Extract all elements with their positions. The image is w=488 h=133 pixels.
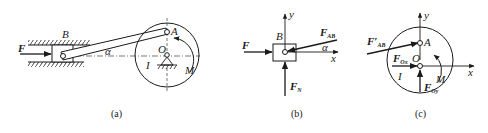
mechanics-diagram: F B α A O I M (a) y x F FAB α B xyxy=(0,0,488,133)
figure-a: F B α A O I M (a) xyxy=(17,18,200,120)
body-label: I xyxy=(397,70,403,82)
fox-label: FOx xyxy=(392,52,408,65)
moment-label: M xyxy=(435,73,446,85)
y-axis-label: y xyxy=(288,8,294,20)
x-axis-label: x xyxy=(330,52,336,64)
caption-b: (b) xyxy=(291,108,303,120)
pivot-label: O xyxy=(158,43,166,55)
caption-c: (c) xyxy=(415,108,426,120)
moment-label: M xyxy=(184,64,195,76)
y-axis-label: y xyxy=(423,9,429,21)
pivot-label: O xyxy=(412,52,420,64)
force-label: F xyxy=(241,39,250,51)
slider-label: B xyxy=(62,28,69,40)
slider-label: B xyxy=(276,30,283,42)
body-label: I xyxy=(145,59,151,71)
pin-b xyxy=(283,50,288,55)
upper-guide-hatch xyxy=(28,40,90,45)
pin-b xyxy=(61,54,66,59)
pivot-o xyxy=(418,64,423,69)
angle-label: α xyxy=(105,45,111,57)
figure-b: y x F FAB α B FN (b) xyxy=(241,8,338,120)
normal-force-label: FN xyxy=(289,80,302,93)
pivot-support xyxy=(161,57,173,65)
ground-hatch xyxy=(157,65,177,69)
lower-guide-hatch xyxy=(28,62,84,67)
figure-c: y x F′AB A FOx O FOy I M (c) xyxy=(366,9,474,120)
caption-a: (a) xyxy=(111,108,122,120)
pin-a xyxy=(418,41,423,46)
force-ab-label: FAB xyxy=(319,26,335,39)
force-label: F xyxy=(17,42,26,54)
force-ab-label: F′AB xyxy=(366,35,385,48)
pin-a xyxy=(165,30,170,35)
point-a-label: A xyxy=(423,36,431,48)
angle-label: α xyxy=(322,41,328,53)
point-a-label: A xyxy=(170,25,178,37)
x-axis-label: x xyxy=(467,66,473,78)
